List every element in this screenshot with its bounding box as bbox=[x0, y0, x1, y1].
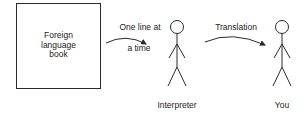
arrow1-label-bottom: a time bbox=[127, 43, 150, 53]
arrow1-label-top: One line at bbox=[119, 22, 160, 32]
book-label: Foreign language book bbox=[16, 3, 101, 88]
arrow-interpreter-to-you bbox=[205, 37, 265, 45]
arrow2-label: Translation bbox=[215, 22, 257, 32]
you-label: You bbox=[275, 100, 289, 110]
you-figure bbox=[273, 21, 291, 87]
interpreter-label: Interpreter bbox=[157, 100, 196, 110]
interpreter-figure bbox=[168, 21, 186, 87]
book-label-line-3: book bbox=[41, 50, 76, 60]
